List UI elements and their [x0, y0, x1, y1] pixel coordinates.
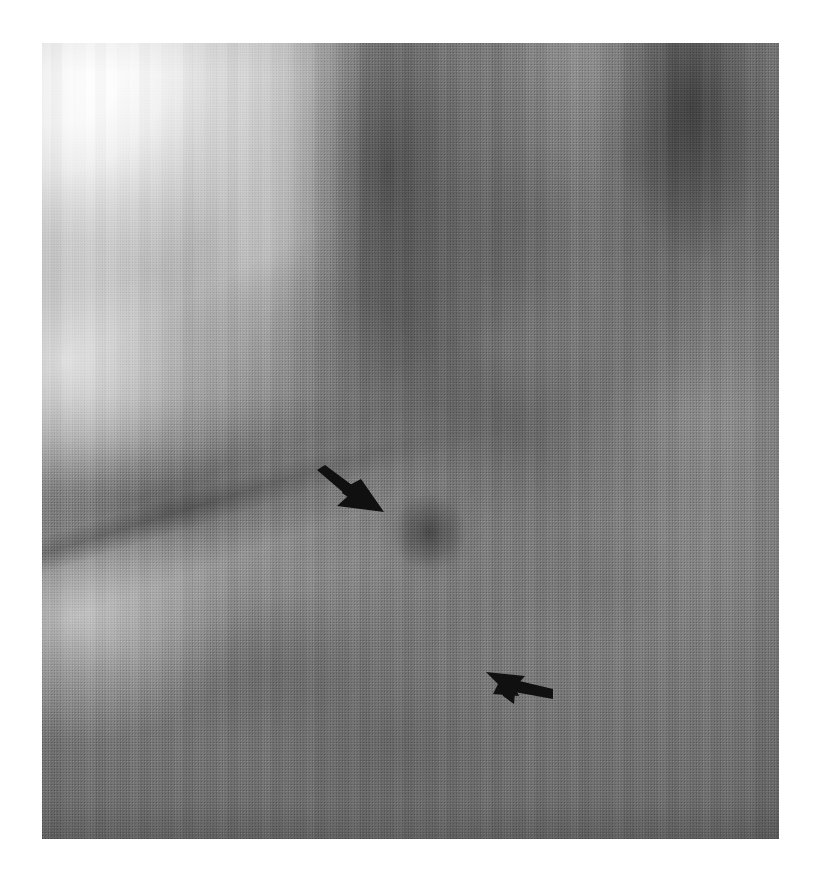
print-vignette-layer: [42, 43, 779, 839]
bright-lobe-left: [42, 43, 779, 839]
scan-banding-layer: [42, 43, 779, 839]
halftone-screen-layer: [42, 43, 779, 839]
soft-tissue-shelf-line: [42, 43, 779, 839]
radiograph-panel[interactable]: [42, 43, 779, 839]
annotation-arrow-icon-lower[interactable]: [481, 663, 557, 713]
arrow-lower-glyph: [486, 672, 553, 704]
rib-shadow-wedge: [42, 43, 779, 839]
figure-root: [0, 0, 814, 875]
annotation-arrow-icon-upper[interactable]: [314, 463, 392, 521]
soft-tissue-mottling: [42, 43, 779, 839]
lower-field-darkening: [42, 43, 779, 839]
bright-lobe-lower-left: [42, 43, 779, 839]
film-grain-layer: [42, 43, 779, 839]
dark-upper-right-mass: [42, 43, 779, 839]
bright-rib-band-right: [42, 43, 779, 839]
dark-vertical-band-top-right: [42, 43, 779, 839]
arrow-upper-glyph: [317, 465, 384, 512]
diagonal-linear-opacity: [42, 43, 779, 839]
rib-cortex-bright-edge: [42, 43, 779, 839]
focal-lesion: [42, 43, 779, 839]
dark-vertical-band-center: [42, 43, 779, 839]
tone-base-layer: [42, 43, 779, 839]
bright-rib-band-left: [42, 43, 779, 839]
